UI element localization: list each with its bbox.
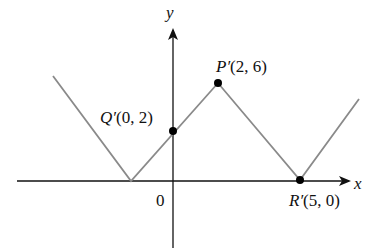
function-graph — [53, 76, 359, 181]
origin-label: 0 — [156, 191, 165, 210]
point-p-prime — [214, 79, 222, 87]
point-q-prime — [169, 127, 177, 135]
y-axis-label: y — [164, 3, 174, 22]
point-p-prime-label: P′(2, 6) — [215, 57, 267, 76]
point-r-prime — [296, 176, 304, 184]
x-axis-label: x — [353, 174, 362, 193]
graph-canvas: y x 0 P′(2, 6) Q′(0, 2) R′(5, 0) — [0, 0, 369, 248]
point-r-prime-label: R′(5, 0) — [288, 191, 340, 210]
point-q-prime-label: Q′(0, 2) — [100, 108, 153, 127]
